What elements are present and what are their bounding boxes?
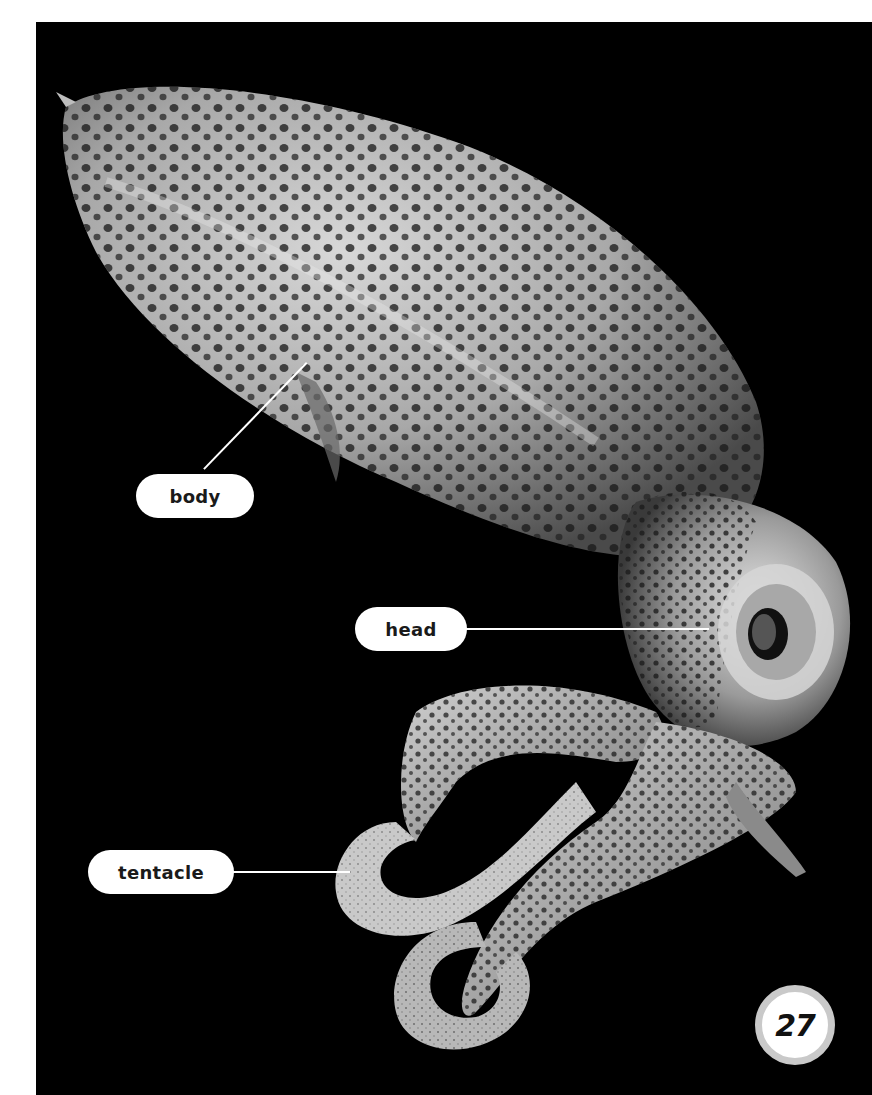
page-number: 27 xyxy=(775,1008,815,1043)
head-leader-line xyxy=(464,628,709,630)
label-body-text: body xyxy=(169,486,220,507)
squid-head xyxy=(618,492,850,747)
label-head-text: head xyxy=(385,619,436,640)
label-tentacle-text: tentacle xyxy=(118,862,204,883)
label-tentacle: tentacle xyxy=(88,850,234,894)
squid-photo: body head tentacle xyxy=(36,22,872,1095)
squid-illustration xyxy=(36,22,872,1095)
page-number-badge: 27 xyxy=(755,985,835,1065)
label-body: body xyxy=(136,474,254,518)
label-head: head xyxy=(355,607,467,651)
tentacle-leader-line xyxy=(232,871,350,873)
